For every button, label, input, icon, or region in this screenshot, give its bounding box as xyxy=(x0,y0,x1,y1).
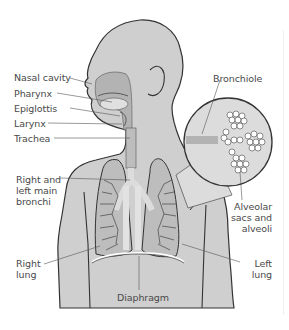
label-line: left main xyxy=(16,185,61,196)
label-line: Right and xyxy=(16,174,61,185)
label-line: alveoli xyxy=(222,223,272,234)
label-line: Left xyxy=(232,258,272,269)
label-diaphragm: Diaphragm xyxy=(117,292,169,303)
label-trachea: Trachea xyxy=(14,133,50,144)
label-nasal-cavity: Nasal cavity xyxy=(14,72,71,83)
label-pharynx: Pharynx xyxy=(14,88,52,99)
respiratory-diagram: Nasal cavity Pharynx Epiglottis Larynx T… xyxy=(0,0,289,330)
label-alveoli: Alveolar sacs and alveoli xyxy=(222,201,272,234)
label-right-lung: Right lung xyxy=(16,258,41,280)
label-bronchiole: Bronchiole xyxy=(213,73,262,84)
label-line: Right xyxy=(16,258,41,269)
label-epiglottis: Epiglottis xyxy=(14,103,57,114)
alveoli-inset xyxy=(176,98,272,208)
label-left-lung: Left lung xyxy=(232,258,272,280)
label-main-bronchi: Right and left main bronchi xyxy=(16,174,61,207)
label-line: bronchi xyxy=(16,196,61,207)
label-line: Alveolar xyxy=(222,201,272,212)
label-larynx: Larynx xyxy=(14,118,46,129)
label-line: lung xyxy=(16,269,41,280)
anatomy-illustration xyxy=(0,0,289,330)
label-line: lung xyxy=(232,269,272,280)
label-line: sacs and xyxy=(222,212,272,223)
